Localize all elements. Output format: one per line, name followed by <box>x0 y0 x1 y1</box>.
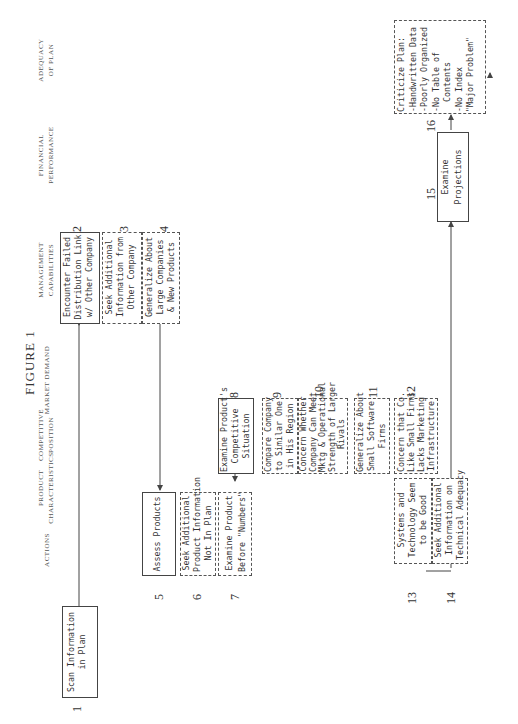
node-14-number: 14 <box>444 592 459 604</box>
node-10-number: 10 <box>312 386 327 398</box>
node-8-text: Examine Product's Competitive Situation <box>219 400 252 472</box>
node-7-text: Examine Product Before "Numbers" <box>223 494 249 572</box>
node-1-number: 1 <box>70 706 85 712</box>
node-3-number: 3 <box>117 226 132 232</box>
node-3-text: Seek Additional Information from Other C… <box>104 234 137 320</box>
node-5-number: 5 <box>152 594 167 600</box>
node-10-text: Concern Whether Company Can Meet Mktg & … <box>299 396 347 472</box>
node-4-text: Generalize About Large Companies & New P… <box>144 234 177 320</box>
node-8-number: 8 <box>227 392 242 398</box>
node-16-text: Criticize Plan: -Handwritten Data -Poorl… <box>396 22 477 112</box>
node-11-text: Generalize About Small Software Firms <box>355 400 388 472</box>
node-12-number: 12 <box>404 386 419 398</box>
node-6-number: 6 <box>190 594 205 600</box>
node-7-number: 7 <box>228 594 243 600</box>
node-4-number: 4 <box>157 226 172 232</box>
node-9-number: 9 <box>270 392 285 398</box>
node-9-text: Compare Company to Similar One in His Re… <box>263 400 296 472</box>
node-14-text: Seek Additional Information on Technical… <box>433 480 466 560</box>
node-16-number: 16 <box>424 120 439 132</box>
node-1-text: Scan Information in Plan <box>66 612 88 692</box>
node-12-text: Concern that Co. Like Small Firms Lacks … <box>396 400 436 472</box>
node-11-number: 11 <box>366 386 381 398</box>
node-13-number: 13 <box>405 592 420 604</box>
node-6-text: Seek Additional Product Information Not … <box>181 494 214 572</box>
node-5-text: Assess Products <box>152 496 163 572</box>
node-2-text: Encounter Failed Distribution Link w/ Ot… <box>62 234 95 320</box>
node-15-number: 15 <box>424 188 439 200</box>
node-15-text: Examine Projections <box>439 136 465 218</box>
node-13-text: Systems and Technology Seem to be Good <box>396 480 429 560</box>
node-2-number: 2 <box>70 226 85 232</box>
